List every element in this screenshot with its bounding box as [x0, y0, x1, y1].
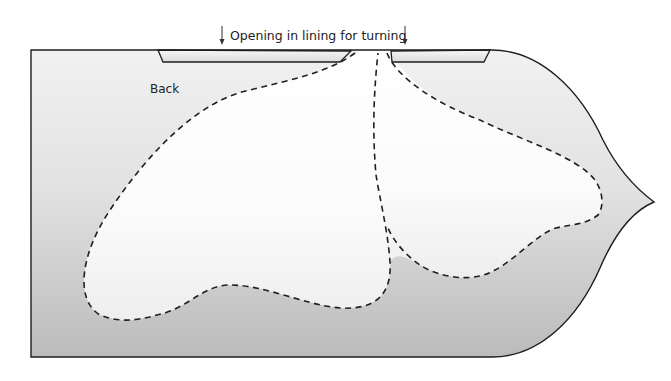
opening-label: Opening in lining for turning	[230, 28, 406, 43]
turning-opening-diagram: Opening in lining for turning Back	[0, 0, 671, 381]
opening-strip-left[interactable]	[158, 50, 351, 62]
opening-label-group: Opening in lining for turning	[220, 26, 408, 45]
piece-label-back: Back	[150, 82, 179, 96]
arrow-left-head-icon	[220, 39, 225, 45]
opening-strip-right[interactable]	[391, 50, 490, 62]
